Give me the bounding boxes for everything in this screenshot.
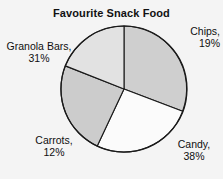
pie-label-carrots: Carrots, 12% (27, 135, 81, 158)
chart-canvas: Favourite Snack Food Chips, 19% Granola … (0, 0, 223, 179)
pie-label-chips-value: 19% (160, 38, 220, 50)
pie-label-candy-name: Candy, (168, 139, 220, 151)
pie-label-carrots-name: Carrots, (27, 135, 81, 147)
pie-label-chips: Chips, 19% (160, 26, 220, 49)
pie-label-candy-value: 38% (168, 151, 220, 163)
pie-label-chips-name: Chips, (160, 26, 220, 38)
pie-label-candy: Candy, 38% (168, 139, 220, 162)
pie-label-granola-bars-name: Granola Bars, (1, 41, 77, 53)
pie-label-granola-bars: Granola Bars, 31% (1, 41, 77, 64)
pie-label-carrots-value: 12% (27, 147, 81, 159)
pie-label-granola-bars-value: 31% (1, 53, 77, 65)
